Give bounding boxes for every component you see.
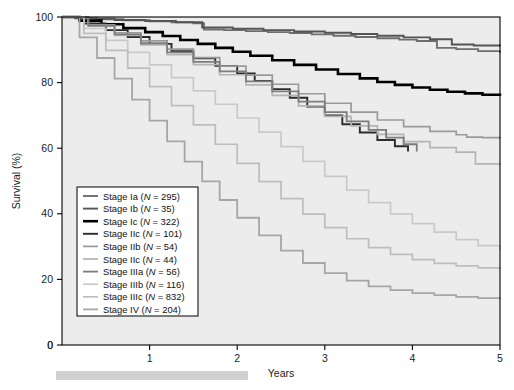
legend-label-stage-iv: Stage IV (N = 204) (103, 304, 181, 315)
legend: Stage Ia (N = 295)Stage Ib (N = 35)Stage… (77, 187, 198, 316)
y-axis-label: Survival (%) (10, 153, 22, 210)
kaplan-meier-chart: 020406080100 123450 Survival (%) Years S… (0, 0, 514, 390)
x-tick-label: 3 (322, 352, 328, 364)
y-tick-label: 100 (35, 11, 53, 23)
legend-label-stage-ic: Stage Ic (N = 322) (103, 216, 179, 227)
legend-label-stage-iib: Stage IIb (N = 54) (103, 241, 177, 252)
y-tick-label: 40 (41, 207, 53, 219)
x-tick-label: 4 (409, 352, 415, 364)
caption-strip (56, 371, 248, 380)
legend-label-stage-iic: Stage IIc (N = 44) (103, 254, 177, 265)
y-tick-label: 80 (41, 76, 53, 88)
survival-figure: 020406080100 123450 Survival (%) Years S… (0, 0, 514, 390)
legend-label-stage-iic: Stage IIc (N = 101) (103, 228, 182, 239)
x-tick-label: 5 (497, 352, 503, 364)
x-tick-label: 2 (234, 352, 240, 364)
legend-label-stage-ib: Stage Ib (N = 35) (103, 203, 175, 214)
x-origin-label: 0 (47, 339, 53, 351)
legend-label-stage-iiic: Stage IIIc (N = 832) (103, 291, 185, 302)
legend-label-stage-iiia: Stage IIIa (N = 56) (103, 266, 180, 277)
legend-label-stage-iiib: Stage IIIb (N = 116) (103, 279, 184, 290)
x-axis-label: Years (268, 367, 294, 379)
y-tick-label: 60 (41, 142, 53, 154)
x-tick-label: 1 (147, 352, 153, 364)
y-tick-label: 20 (41, 273, 53, 285)
legend-label-stage-ia: Stage Ia (N = 295) (103, 191, 180, 202)
